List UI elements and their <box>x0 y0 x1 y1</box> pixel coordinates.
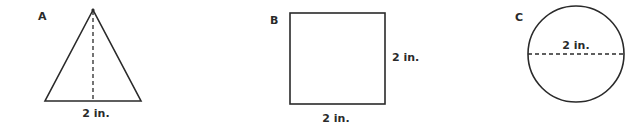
shapes-diagram: A 2 in. B 2 in. 2 in. C 2 in. <box>0 0 643 132</box>
figure-a-label: A <box>38 10 47 23</box>
figure-c-label: C <box>515 11 523 24</box>
figure-c: C 2 in. <box>515 6 624 102</box>
square-side-label: 2 in. <box>392 51 419 64</box>
triangle-apex-dot <box>91 8 94 11</box>
figure-b: B 2 in. 2 in. <box>270 13 419 125</box>
square-bottom-label: 2 in. <box>322 112 349 125</box>
triangle-base-label: 2 in. <box>82 107 109 120</box>
circle-diameter-label: 2 in. <box>562 39 589 52</box>
square-shape <box>290 13 385 104</box>
figure-a: A 2 in. <box>38 8 141 120</box>
figure-b-label: B <box>270 14 278 27</box>
